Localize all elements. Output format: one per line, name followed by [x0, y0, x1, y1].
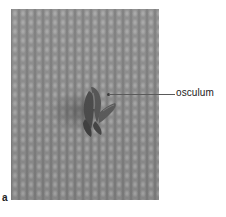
osculum-label: osculum [176, 87, 214, 98]
figure: osculum a [0, 0, 226, 217]
sponge-image [71, 83, 121, 139]
sponge-shadow [49, 91, 99, 131]
leader-line [109, 94, 175, 95]
sponge-photo [11, 9, 159, 200]
panel-letter: a [2, 192, 8, 203]
